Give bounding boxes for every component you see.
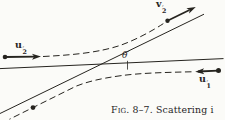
v2-label-subscript: 2 xyxy=(162,9,166,13)
theta-prime: ′ xyxy=(127,50,129,58)
u2-label-subscript: 2 xyxy=(22,50,26,54)
v2-vector-line xyxy=(168,10,190,21)
caption-figure-number: Fig. 8–7. xyxy=(111,104,153,115)
particle2-trajectory-dashed xyxy=(43,23,164,56)
u2-label-base: u xyxy=(15,39,22,50)
horizontal-asymptote-line xyxy=(0,59,224,69)
v2-arrowhead-icon xyxy=(186,4,197,13)
scattering-figure-canvas xyxy=(0,0,225,120)
u2-vector-label: u′2 xyxy=(15,40,27,54)
v2-vector-label: v′2 xyxy=(156,0,166,13)
v2-label-base: v xyxy=(156,0,162,9)
u1-label-subscript: 1 xyxy=(206,84,210,88)
figure-caption: Fig. 8–7. Scattering i xyxy=(111,104,225,115)
u1-label-base: u xyxy=(199,73,206,84)
diagonal-asymptote-line xyxy=(0,14,204,113)
u1-vector-label: u′1 xyxy=(199,74,211,88)
particle1-outgoing-dot xyxy=(31,105,36,110)
scattering-figure: u′2 v′2 u′1 θ′ Fig. 8–7. Scattering i xyxy=(0,0,225,120)
theta-angle-label: θ′ xyxy=(122,51,129,60)
caption-text: Scattering i xyxy=(156,104,214,115)
